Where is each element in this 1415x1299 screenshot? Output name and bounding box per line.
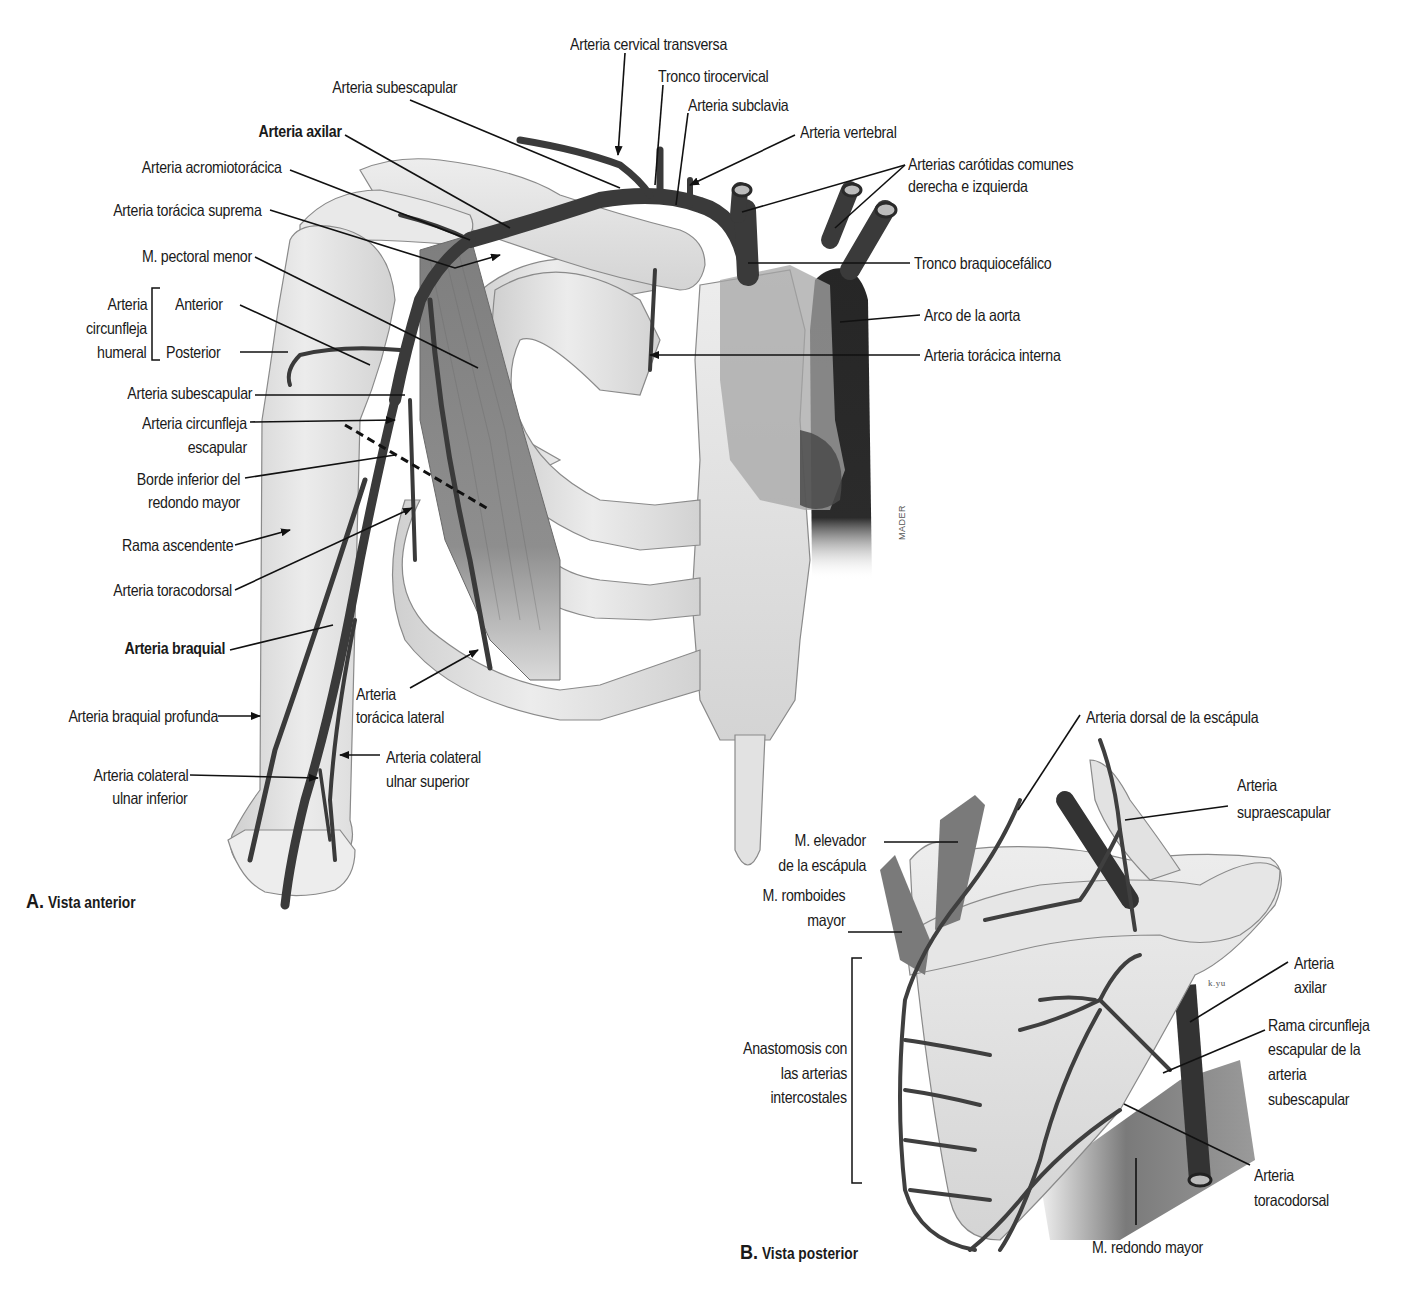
carotid-left-1: [830, 190, 850, 240]
panel-a-title: A. Vista anterior: [26, 889, 136, 913]
label-suprascapular-2: supraescapular: [1237, 802, 1330, 823]
label-thoracodorsal-posterior-2: toracodorsal: [1254, 1190, 1329, 1211]
label-ascending-branch: Rama ascendente: [122, 535, 233, 556]
label-pectoralis-minor: M. pectoral menor: [142, 246, 252, 267]
label-levator-scapulae-2: de la escápula: [778, 855, 866, 876]
label-axillary-artery: Arteria axilar: [259, 121, 342, 142]
label-circumflex-humeral-2: circunfleja: [86, 318, 147, 339]
anastomosis-bracket: [852, 958, 862, 1183]
label-vertebral-artery: Arteria vertebral: [800, 122, 897, 143]
panel-a-letter: A.: [26, 889, 44, 912]
label-dorsal-scapular-artery: Arteria dorsal de la escápula: [1086, 707, 1258, 728]
xiphoid-process: [735, 735, 765, 865]
label-aortic-arch: Arco de la aorta: [924, 305, 1020, 326]
brachiocephalic-trunk: [745, 210, 748, 275]
label-circumflex-scapular-branch-2: escapular de la: [1268, 1039, 1360, 1060]
label-common-carotid-arteries-2: derecha e izquierda: [908, 176, 1028, 197]
label-anterior-circumflex: Anterior: [175, 294, 223, 315]
label-brachiocephalic-trunk: Tronco braquiocefálico: [914, 253, 1051, 274]
label-brachial-artery: Arteria braquial: [124, 638, 225, 659]
label-subscapular-artery-top: Arteria subescapular: [332, 77, 457, 98]
carotid-left-2: [850, 210, 885, 270]
panel-b-letter: B.: [740, 1240, 758, 1263]
label-rhomboid-major-1: M. romboides: [762, 885, 845, 906]
panel-b-posterior-view: k.yu: [848, 715, 1288, 1250]
label-subclavian-artery: Arteria subclavia: [688, 95, 789, 116]
label-circumflex-scapular-branch-3: arteria: [1268, 1064, 1306, 1085]
label-circumflex-scapular-branch-4: subescapular: [1268, 1089, 1349, 1110]
artist-signature-mader: MADER: [897, 505, 907, 540]
label-teres-major-border-2: redondo mayor: [148, 492, 240, 513]
label-lateral-thoracic-2: torácica lateral: [356, 707, 444, 728]
label-lateral-thoracic-1: Arteria: [356, 684, 396, 705]
label-circumflex-humeral-3: humeral: [98, 342, 147, 363]
label-superior-ulnar-collateral-2: ulnar superior: [386, 771, 469, 792]
label-anastomosis-1: Anastomosis con: [743, 1038, 847, 1059]
label-anastomosis-3: intercostales: [771, 1087, 847, 1108]
label-subscapular-artery: Arteria subescapular: [127, 383, 252, 404]
label-anastomosis-2: las arterias: [781, 1063, 847, 1084]
label-thyrocervical-trunk: Tronco tirocervical: [658, 66, 768, 87]
panel-b-title: B. Vista posterior: [740, 1240, 858, 1264]
label-thoracoacromial-artery: Arteria acromiotorácica: [142, 157, 282, 178]
label-transverse-cervical-artery: Arteria cervical transversa: [570, 34, 727, 55]
label-circumflex-scapular-1: Arteria circunfleja: [142, 413, 247, 434]
panel-a-title-text: Vista anterior: [48, 894, 136, 911]
thoracodorsal-artery: [410, 400, 415, 560]
label-levator-scapulae-1: M. elevador: [795, 830, 866, 851]
label-superior-ulnar-collateral-1: Arteria colateral: [386, 747, 481, 768]
label-deep-brachial-artery: Arteria braquial profunda: [68, 706, 218, 727]
label-posterior-circumflex: Posterior: [166, 342, 220, 363]
panel-a-anterior-view: MADER: [152, 53, 920, 905]
label-inferior-ulnar-collateral-1: Arteria colateral: [93, 765, 188, 786]
label-suprascapular-1: Arteria: [1237, 775, 1277, 796]
label-thoracodorsal-posterior-1: Arteria: [1254, 1165, 1294, 1186]
label-teres-major-border-1: Borde inferior del: [137, 469, 240, 490]
label-teres-major-muscle: M. redondo mayor: [1092, 1237, 1203, 1258]
axillary-artery-posterior: [1185, 985, 1200, 1180]
label-internal-thoracic-artery: Arteria torácica interna: [924, 345, 1061, 366]
artist-signature-kyu: k.yu: [1208, 978, 1226, 988]
label-circumflex-humeral-1: Arteria: [107, 294, 147, 315]
circumflex-humeral-bracket: [152, 288, 160, 360]
label-thoracodorsal-artery: Arteria toracodorsal: [113, 580, 232, 601]
label-circumflex-scapular-2: escapular: [188, 437, 247, 458]
label-common-carotid-arteries-1: Arterias carótidas comunes: [908, 154, 1073, 175]
panel-b-title-text: Vista posterior: [762, 1245, 858, 1262]
label-circumflex-scapular-branch-1: Rama circunfleja: [1268, 1015, 1370, 1036]
label-superior-thoracic-artery: Arteria torácica suprema: [114, 200, 262, 221]
label-axillary-artery-posterior-1: Arteria: [1294, 953, 1334, 974]
label-rhomboid-major-2: mayor: [807, 910, 845, 931]
label-inferior-ulnar-collateral-2: ulnar inferior: [113, 788, 188, 809]
label-axillary-artery-posterior-2: axilar: [1294, 977, 1326, 998]
